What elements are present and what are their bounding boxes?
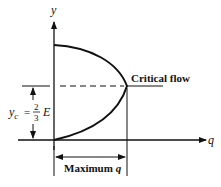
discharge-curve <box>54 45 127 140</box>
critical-flow-label: Critical flow <box>131 72 190 84</box>
svg-text:yc: yc <box>8 105 18 121</box>
svg-text:Maximum q: Maximum q <box>64 162 122 174</box>
max-q-text: Maximum <box>64 162 116 174</box>
max-q-dimension: Maximum q <box>56 157 125 174</box>
yc-numerator: 2 <box>34 102 39 112</box>
yc-subscript: c <box>14 111 18 121</box>
q-axis-label: q <box>208 133 214 147</box>
yc-dimension: yc = 2 3 E <box>8 88 51 138</box>
y-axis: y <box>50 3 57 150</box>
yc-denominator: 3 <box>34 113 39 123</box>
q-axis: q <box>18 133 214 147</box>
y-axis-label: y <box>50 3 57 17</box>
yc-equals: = <box>24 106 30 118</box>
specific-discharge-diagram: y q Critical flow yc = 2 3 E Maximum q <box>0 0 221 187</box>
critical-depth-line: Critical flow <box>22 72 190 86</box>
max-q-var: q <box>116 162 122 174</box>
yc-variable: E <box>42 105 51 119</box>
